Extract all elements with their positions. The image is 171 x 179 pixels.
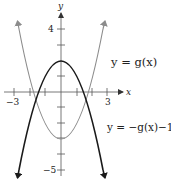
y-axis-label: y bbox=[57, 1, 64, 11]
curve-label-g: y = g(x) bbox=[110, 55, 157, 69]
x-axis-label: x bbox=[126, 87, 131, 97]
y-axis bbox=[57, 13, 65, 176]
x-axis bbox=[4, 88, 123, 96]
y-tick-label-bottom: −5 bbox=[43, 165, 57, 175]
y-tick-label-top: 4 bbox=[48, 24, 54, 34]
x-tick-label-right: 3 bbox=[105, 97, 111, 107]
x-tick-label-left: −3 bbox=[6, 97, 20, 107]
graph-canvas: y x 4 −5 −3 3 y = g(x) y = −g(x)−1 bbox=[0, 0, 171, 179]
curve-label-neg-g-minus-1: y = −g(x)−1 bbox=[106, 121, 171, 133]
